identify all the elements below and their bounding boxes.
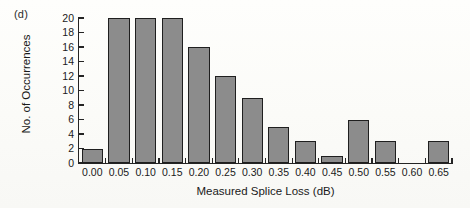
bar: [82, 149, 103, 164]
y-tick-label: 14: [52, 56, 74, 66]
bar: [375, 141, 396, 163]
x-tick-label: 0.65: [419, 167, 459, 178]
y-tick-label: 20: [52, 13, 74, 23]
bar: [108, 18, 129, 163]
bar: [428, 141, 449, 163]
y-tick-label: 4: [52, 129, 74, 139]
y-tick-label: 16: [52, 42, 74, 52]
y-tick-label: 8: [52, 100, 74, 110]
bar: [348, 120, 369, 164]
histogram-figure: (d) 02468101214161820 0.000.050.100.150.…: [0, 0, 470, 208]
y-axis-title: No. of Occurrences: [20, 24, 32, 144]
panel-label: (d): [14, 8, 28, 20]
y-tick-label: 18: [52, 27, 74, 37]
bar: [321, 156, 342, 163]
y-tick-label: 0: [52, 158, 74, 168]
y-tick-label: 6: [52, 114, 74, 124]
bar: [242, 98, 263, 163]
bar: [188, 47, 209, 163]
y-tick-label: 2: [52, 143, 74, 153]
bar: [162, 18, 183, 163]
bar: [268, 127, 289, 163]
plot-area: [79, 18, 452, 163]
bar: [295, 141, 316, 163]
y-tick-label: 12: [52, 71, 74, 81]
y-tick-label: 10: [52, 85, 74, 95]
bar: [135, 18, 156, 163]
x-axis-title: Measured Splice Loss (dB): [79, 185, 452, 197]
bar: [215, 76, 236, 163]
